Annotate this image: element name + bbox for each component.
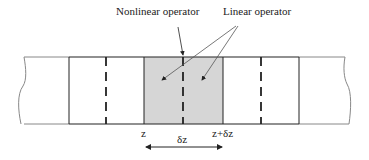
z-start-label: z [141,127,146,139]
fiber-break-right [344,57,351,124]
nonlinear-arrow [178,27,183,55]
linear-operator-label: Linear operator [223,5,291,17]
fiber-break-left [19,57,26,124]
nonlinear-operator-label: Nonlinear operator [116,5,199,17]
step-size-label: δz [177,133,187,145]
z-end-label: z+δz [212,127,233,139]
